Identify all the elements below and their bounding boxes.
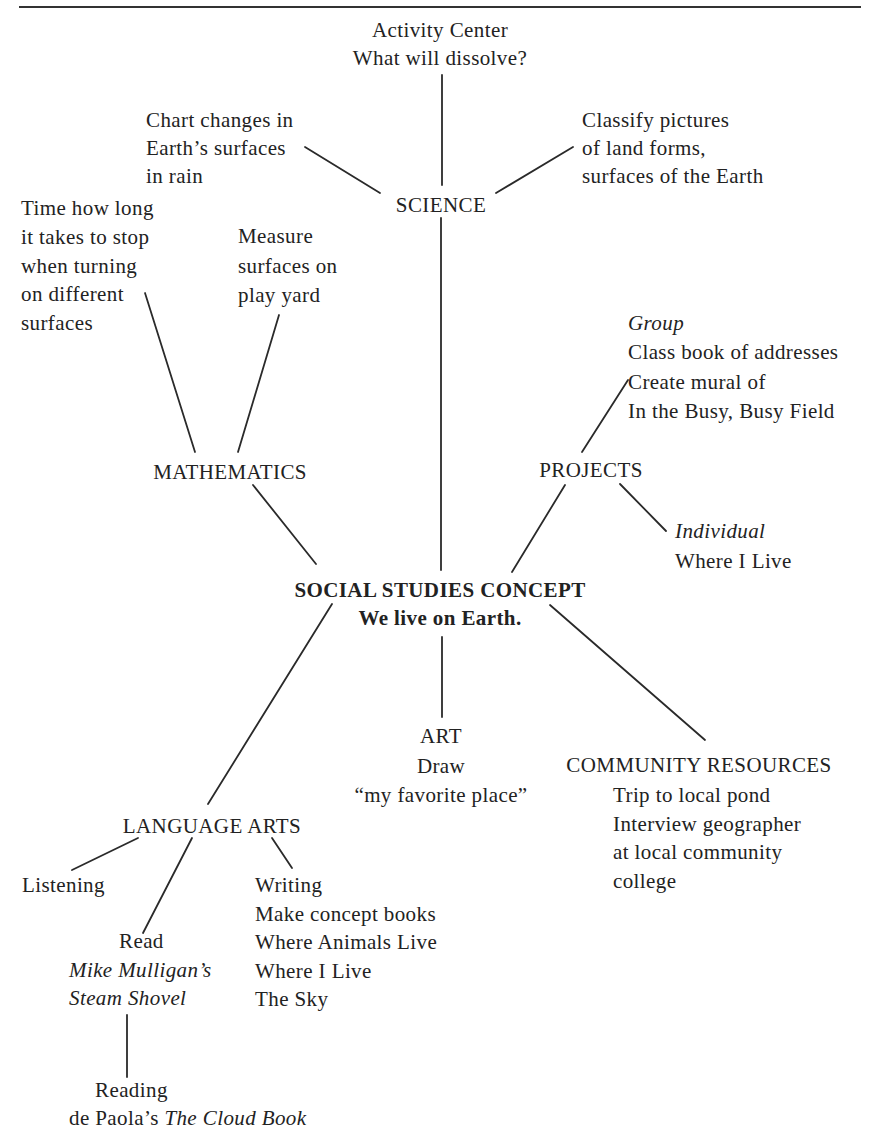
line-projects-individual xyxy=(620,484,666,531)
community-resources-items: Trip to local pond Interview geographer … xyxy=(613,781,801,895)
read-book-title: Mike Mulligan’s Steam Shovel xyxy=(69,956,212,1012)
central-concept-title: SOCIAL STUDIES CONCEPT xyxy=(240,576,640,604)
line-science-classify xyxy=(496,147,573,193)
activity-center-node: Activity Center What will dissolve? xyxy=(240,16,640,72)
measure-activity-line: play yard xyxy=(238,281,337,311)
classify-line: of land forms, xyxy=(582,134,764,162)
time-activity-line: when turning xyxy=(21,252,154,281)
community-item: at local community xyxy=(613,838,801,867)
line-projects-group xyxy=(582,380,628,452)
group-item: Class book of addresses xyxy=(628,338,838,367)
community-item: Trip to local pond xyxy=(613,781,801,810)
group-heading: Group xyxy=(628,309,838,338)
writing-item: Where I Live xyxy=(255,957,437,986)
classify-line: surfaces of the Earth xyxy=(582,162,764,190)
time-activity-line: Time how long xyxy=(21,194,154,223)
activity-center-line: Activity Center xyxy=(240,16,640,44)
reading-book-node: de Paola’s The Cloud Book xyxy=(69,1104,306,1133)
community-item: college xyxy=(613,867,801,896)
projects-label: PROJECTS xyxy=(391,456,791,485)
activity-center-line: What will dissolve? xyxy=(240,44,640,72)
time-activity-node: Time how long it takes to stop when turn… xyxy=(21,194,154,338)
chart-changes-line: Earth’s surfaces xyxy=(146,134,294,162)
read-book-title-line: Steam Shovel xyxy=(69,984,212,1012)
science-label: SCIENCE xyxy=(241,191,641,220)
line-projects-center xyxy=(512,485,565,572)
chart-changes-node: Chart changes in Earth’s surfaces in rai… xyxy=(146,106,294,190)
measure-activity-line: Measure xyxy=(238,222,337,252)
reading-author: de Paola’s xyxy=(69,1106,164,1130)
group-item: Create mural of xyxy=(628,368,838,397)
group-item: In the Busy, Busy Field xyxy=(628,397,838,426)
time-activity-line: on different xyxy=(21,280,154,309)
chart-changes-line: Chart changes in xyxy=(146,106,294,134)
line-math-measure xyxy=(238,315,279,452)
read-label: Read xyxy=(119,927,164,956)
art-line: “my favorite place” xyxy=(241,781,641,811)
central-concept-subtitle: We live on Earth. xyxy=(240,604,640,632)
line-science-chart-changes xyxy=(305,147,380,193)
classify-line: Classify pictures xyxy=(582,106,764,134)
reading-book-title: The Cloud Book xyxy=(164,1106,306,1130)
measure-activity-line: surfaces on xyxy=(238,252,337,282)
line-la-writing xyxy=(272,838,292,868)
individual-projects-node: Individual Where I Live xyxy=(675,516,792,576)
individual-heading: Individual xyxy=(675,516,792,546)
time-activity-line: it takes to stop xyxy=(21,223,154,252)
classify-node: Classify pictures of land forms, surface… xyxy=(582,106,764,190)
line-la-read xyxy=(143,838,192,933)
community-item: Interview geographer xyxy=(613,810,801,839)
community-resources-label: COMMUNITY RESOURCES xyxy=(499,751,872,780)
listening-node: Listening xyxy=(22,871,105,900)
measure-activity-node: Measure surfaces on play yard xyxy=(238,222,337,311)
line-la-listening xyxy=(72,838,138,870)
group-projects-node: Group Class book of addresses Create mur… xyxy=(628,309,838,426)
time-activity-line: surfaces xyxy=(21,309,154,338)
read-book-title-line: Mike Mulligan’s xyxy=(69,956,212,984)
writing-item: The Sky xyxy=(255,985,437,1014)
language-arts-label: LANGUAGE ARTS xyxy=(12,812,412,841)
art-label: ART xyxy=(241,722,641,752)
writing-item: Make concept books xyxy=(255,900,437,929)
reading-label: Reading xyxy=(95,1076,168,1105)
writing-node: Writing Make concept books Where Animals… xyxy=(255,871,437,1014)
individual-item: Where I Live xyxy=(675,546,792,576)
mathematics-label: MATHEMATICS xyxy=(30,458,430,487)
writing-label: Writing xyxy=(255,871,437,900)
chart-changes-line: in rain xyxy=(146,162,294,190)
line-math-center xyxy=(253,485,316,564)
central-concept-node: SOCIAL STUDIES CONCEPT We live on Earth. xyxy=(240,576,640,632)
writing-item: Where Animals Live xyxy=(255,928,437,957)
